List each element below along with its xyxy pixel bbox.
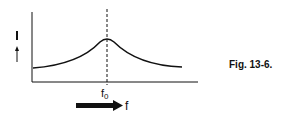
y-arrow-head-icon xyxy=(15,46,19,51)
x-arrow-shaft-icon xyxy=(76,103,114,108)
y-label-i xyxy=(16,31,18,40)
peak-label: f0 xyxy=(101,87,109,101)
x-axis-label: f xyxy=(125,99,129,113)
resonance-curve xyxy=(33,39,182,68)
x-arrow-head-icon xyxy=(113,100,123,111)
figure-caption: Fig. 13-6. xyxy=(229,59,272,70)
